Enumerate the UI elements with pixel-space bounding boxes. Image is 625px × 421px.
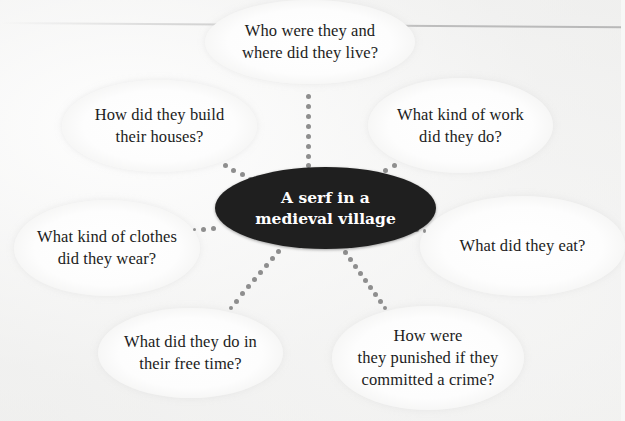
center-node-label: A serf in a medieval village [255, 187, 396, 229]
center-node: A serf in a medieval village [215, 167, 436, 249]
